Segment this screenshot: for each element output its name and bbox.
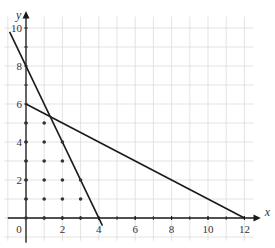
y-tick-label: 4 [17,136,23,148]
lattice-point [42,197,46,201]
x-tick-label: 12 [239,223,250,235]
y-tick-label: 6 [17,98,23,110]
lattice-point [24,197,28,201]
tick-labels: 024681012246810xy [11,8,271,235]
y-axis-label: y [15,8,22,22]
x-tick-label: 8 [169,223,175,235]
x-axis-arrow-icon [254,215,261,222]
lattice-point [42,140,46,144]
constraint-lines [10,32,245,226]
lattice-point [24,159,28,163]
lattice-point [79,216,83,220]
x-axis-label: x [264,205,271,219]
x-tick-label: 10 [203,223,215,235]
lattice-points [24,121,82,220]
x-tick-label: 2 [60,223,66,235]
lattice-point [61,140,65,144]
lattice-point [61,178,65,182]
lattice-point [42,178,46,182]
lattice-point [24,178,28,182]
lattice-point [42,121,46,125]
lattice-point [42,216,46,220]
y-tick-label: 2 [17,174,23,186]
y-tick-label: 10 [11,22,23,34]
constraint-line [10,32,103,226]
lattice-point [61,197,65,201]
lattice-point [61,159,65,163]
grid [4,17,253,241]
x-tick-label: 4 [96,223,102,235]
y-tick-label: 8 [17,60,23,72]
lattice-point [42,159,46,163]
axes [8,11,261,243]
x-tick-label: 6 [132,223,138,235]
x-tick-label: 0 [16,223,22,235]
lattice-point [24,121,28,125]
chart: 024681012246810xy [0,0,275,248]
y-axis-arrow-icon [23,11,30,19]
lattice-point [24,140,28,144]
lattice-point [79,178,83,182]
lattice-point [24,216,28,220]
lattice-point [79,197,83,201]
lattice-point [61,216,65,220]
